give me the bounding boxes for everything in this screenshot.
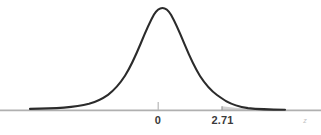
tick-label-zero: 0	[148, 114, 168, 126]
tick-label-critical-value: 2.71	[205, 114, 240, 126]
normal-curve	[30, 8, 285, 110]
x-axis-variable-label: z	[298, 116, 312, 125]
normal-distribution-chart: 0 2.71 z	[0, 0, 321, 135]
